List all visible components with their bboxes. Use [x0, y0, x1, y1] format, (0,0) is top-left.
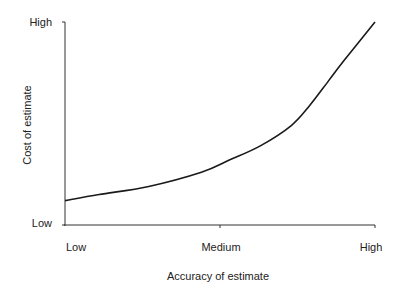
y-tick-label-high: High — [29, 16, 52, 28]
x-tick-label-medium: Medium — [201, 241, 240, 253]
x-axis-title: Accuracy of estimate — [167, 270, 269, 282]
chart-canvas — [0, 0, 407, 300]
x-tick-label-high: High — [360, 241, 383, 253]
y-axis-title: Cost of estimate — [21, 85, 33, 164]
y-tick-label-low: Low — [32, 217, 52, 229]
cost-accuracy-curve — [65, 22, 375, 201]
x-tick-label-low: Low — [66, 241, 86, 253]
